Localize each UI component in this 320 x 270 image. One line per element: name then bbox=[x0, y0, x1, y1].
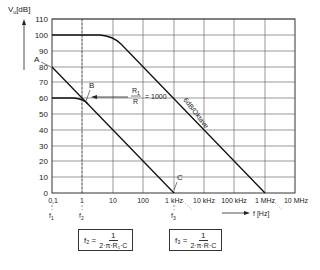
svg-text:110: 110 bbox=[35, 15, 48, 24]
frequency-markers-labels: f1 f2 f3 bbox=[49, 212, 176, 221]
svg-text:100 kHz: 100 kHz bbox=[221, 197, 247, 204]
ratio-annotation: R1 R = 1000 bbox=[91, 87, 167, 105]
slope-label: 6dB/Oktave bbox=[182, 96, 210, 129]
svg-text:= 1000: = 1000 bbox=[145, 93, 167, 100]
svg-text:10 kHz: 10 kHz bbox=[193, 197, 215, 204]
formula-f3: f₃ = 12·π·R·C bbox=[169, 229, 222, 251]
y-tick-labels: 110 100 90 80 70 60 50 40 30 20 10 0 bbox=[35, 15, 49, 198]
x-axis-label: f [Hz] bbox=[253, 210, 269, 218]
svg-text:60: 60 bbox=[39, 94, 48, 103]
grid bbox=[52, 19, 295, 193]
svg-text:10 MHz: 10 MHz bbox=[284, 197, 309, 204]
label-C: C bbox=[177, 173, 183, 182]
formula-f2: f₂ = 12·π·R₁·C bbox=[78, 229, 133, 251]
x-arrow-head-icon bbox=[244, 211, 250, 215]
svg-text:80: 80 bbox=[39, 63, 48, 72]
bode-chart: 110 100 90 80 70 60 50 40 30 20 10 0 0,1… bbox=[0, 0, 320, 270]
svg-text:1: 1 bbox=[80, 197, 84, 204]
svg-text:R: R bbox=[133, 98, 138, 105]
y-axis-label: Vu[dB] bbox=[8, 5, 30, 15]
y-arrow-head-icon bbox=[22, 19, 26, 25]
svg-text:100: 100 bbox=[35, 31, 49, 40]
x-tick-labels: 0,1 1 10 100 1 kHz 10 kHz 100 kHz 1 MHz … bbox=[48, 197, 308, 204]
svg-text:10: 10 bbox=[109, 197, 117, 204]
svg-text:40: 40 bbox=[39, 126, 48, 135]
svg-text:1 kHz: 1 kHz bbox=[165, 197, 183, 204]
label-A: A bbox=[34, 55, 40, 64]
label-B: B bbox=[89, 81, 94, 90]
svg-text:f2: f2 bbox=[79, 212, 84, 221]
svg-text:0,1: 0,1 bbox=[48, 197, 58, 204]
svg-text:90: 90 bbox=[39, 47, 48, 56]
svg-text:R1: R1 bbox=[132, 87, 140, 96]
svg-text:f3: f3 bbox=[171, 212, 176, 221]
svg-text:10: 10 bbox=[39, 173, 48, 182]
svg-text:50: 50 bbox=[39, 110, 48, 119]
plot-frame bbox=[52, 19, 295, 193]
svg-text:f1: f1 bbox=[49, 212, 54, 221]
svg-text:100: 100 bbox=[137, 197, 149, 204]
svg-text:1 MHz: 1 MHz bbox=[255, 197, 276, 204]
svg-text:30: 30 bbox=[39, 142, 48, 151]
svg-text:20: 20 bbox=[39, 157, 48, 166]
svg-text:70: 70 bbox=[39, 78, 48, 87]
